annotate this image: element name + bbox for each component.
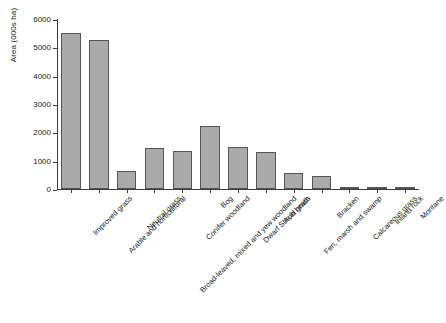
y-tick-label: 4000 (33, 71, 51, 82)
x-tick-mark (377, 189, 378, 193)
y-tick-mark (53, 190, 57, 191)
bar (395, 187, 414, 189)
bar (173, 151, 192, 189)
x-tick-mark (238, 189, 239, 193)
y-axis-line (57, 19, 58, 190)
bar (340, 187, 359, 189)
x-tick-mark (266, 189, 267, 193)
y-tick-label: 2000 (33, 127, 51, 138)
x-tick-mark (182, 189, 183, 193)
plot-area: 0100020003000400050006000 (57, 19, 419, 190)
bar (228, 147, 247, 189)
x-tick-mark (405, 189, 406, 193)
x-tick-label: Neutral grass (145, 194, 183, 232)
x-tick-mark (154, 189, 155, 193)
y-tick-label: 0 (47, 184, 51, 195)
y-tick-mark (53, 105, 57, 106)
x-tick-mark (349, 189, 350, 193)
y-tick-mark (53, 77, 57, 78)
y-axis-title: Area (000s ha) (9, 0, 23, 80)
x-tick-mark (210, 189, 211, 193)
y-tick-label: 6000 (33, 14, 51, 25)
bar (367, 187, 386, 189)
x-tick-mark (99, 189, 100, 193)
x-tick-mark (294, 189, 295, 193)
bar (312, 176, 331, 189)
bar (145, 148, 164, 189)
bar (61, 33, 80, 189)
bar (117, 171, 136, 189)
bar (200, 126, 219, 189)
bar (89, 40, 108, 189)
bar (256, 152, 275, 189)
y-tick-mark (53, 48, 57, 49)
x-tick-mark (71, 189, 72, 193)
x-tick-mark (322, 189, 323, 193)
y-tick-mark (53, 20, 57, 21)
y-tick-label: 3000 (33, 99, 51, 110)
y-tick-label: 1000 (33, 156, 51, 167)
y-tick-label: 5000 (33, 42, 51, 53)
x-tick-label: Improved grass (91, 194, 134, 237)
y-tick-mark (53, 162, 57, 163)
x-tick-label: Broad-leaved, mixed and yew woodland (198, 194, 298, 294)
y-tick-mark (53, 133, 57, 134)
bar (284, 173, 303, 189)
